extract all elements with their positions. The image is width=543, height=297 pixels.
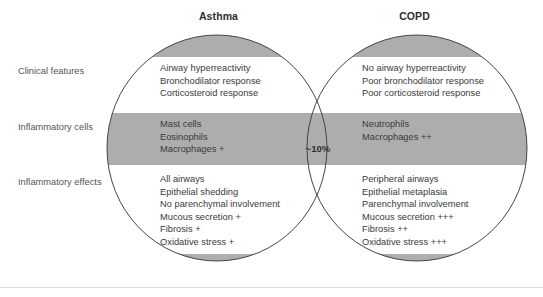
venn-shapes (0, 0, 543, 297)
right-band-bottom (300, 254, 540, 297)
left-items-inflammatory-effects: All airwaysEpithelial sheddingNo parench… (160, 173, 280, 249)
list-item: Oxidative stress + (160, 236, 280, 249)
list-item: Fibrosis + (160, 223, 280, 236)
list-item: Epithelial metaplasia (362, 186, 468, 199)
list-item: Oxidative stress +++ (362, 236, 468, 249)
row-label-inflammatory-effects: Inflammatory effects (18, 177, 102, 187)
list-item: Neutrophils (362, 118, 432, 131)
right-items-inflammatory-cells: NeutrophilsMacrophages ++ (362, 118, 432, 143)
list-item: Mast cells (160, 118, 224, 131)
right-items-inflammatory-effects: Peripheral airwaysEpithelial metaplasiaP… (362, 173, 468, 249)
list-item: Airway hyperreactivity (160, 62, 261, 75)
list-item: All airways (160, 173, 280, 186)
right-items-clinical-features: No airway hyperreactivityPoor bronchodil… (362, 62, 484, 100)
list-item: No airway hyperreactivity (362, 62, 484, 75)
venn-diagram: Asthma COPD Clinical features Inflammato… (0, 0, 543, 297)
lens-bottom-clear (300, 254, 340, 297)
list-item: Corticosteroid response (160, 87, 261, 100)
list-item: No parenchymal involvement (160, 198, 280, 211)
row-label-inflammatory-cells: Inflammatory cells (18, 122, 93, 132)
bottom-divider (0, 287, 543, 288)
list-item: Eosinophils (160, 131, 224, 144)
list-item: Fibrosis ++ (362, 223, 468, 236)
left-items-inflammatory-cells: Mast cellsEosinophilsMacrophages + (160, 118, 224, 156)
right-circle-title: COPD (196, 10, 543, 22)
lens-top-clear (300, 0, 340, 57)
list-item: Macrophages ++ (362, 131, 432, 144)
list-item: Mucous secretion + (160, 211, 280, 224)
list-item: Mucous secretion +++ (362, 211, 468, 224)
list-item: Macrophages + (160, 143, 224, 156)
list-item: Epithelial shedding (160, 186, 280, 199)
overlap-percentage: ~10% (288, 143, 348, 154)
left-items-clinical-features: Airway hyperreactivityBronchodilator res… (160, 62, 261, 100)
left-band-top (100, 0, 340, 57)
left-band-bottom (100, 254, 340, 297)
row-label-clinical-features: Clinical features (18, 66, 84, 76)
list-item: Poor corticosteroid response (362, 87, 484, 100)
list-item: Parenchymal involvement (362, 198, 468, 211)
list-item: Bronchodilator response (160, 75, 261, 88)
list-item: Peripheral airways (362, 173, 468, 186)
right-band-top (300, 0, 540, 57)
list-item: Poor bronchodilator response (362, 75, 484, 88)
